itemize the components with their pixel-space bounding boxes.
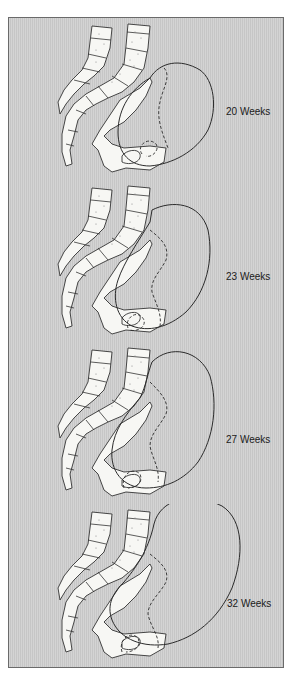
panel-20-weeks xyxy=(0,18,295,178)
label-32-weeks: 32 Weeks xyxy=(227,598,271,609)
spine-pelvis-drawing xyxy=(58,510,166,658)
label-20-weeks: 20 Weeks xyxy=(226,106,270,117)
spine-pelvis-drawing xyxy=(58,186,166,334)
panel-32-weeks xyxy=(0,504,295,669)
panel-23-weeks xyxy=(0,180,295,345)
panel-27-weeks xyxy=(0,342,295,507)
label-23-weeks: 23 Weeks xyxy=(226,271,270,282)
label-27-weeks: 27 Weeks xyxy=(226,434,270,445)
spine-pelvis-drawing xyxy=(58,24,166,172)
